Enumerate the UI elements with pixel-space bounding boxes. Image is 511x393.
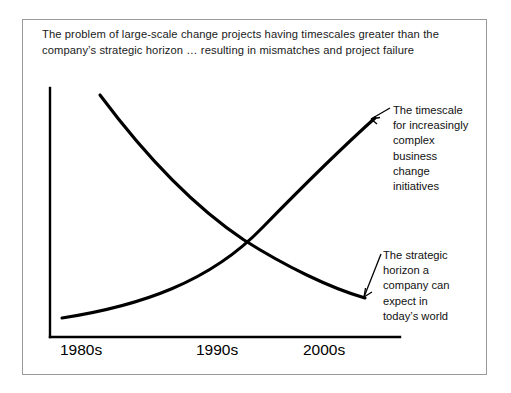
annotation-timescale: The timescale for increasingly complex b… bbox=[393, 103, 468, 194]
annotation-timescale-line-4: business bbox=[393, 149, 468, 164]
chart-graphic bbox=[0, 0, 511, 393]
annotation-timescale-line-1: The timescale bbox=[393, 103, 468, 118]
x-axis-tick-label-2000s: 2000s bbox=[303, 341, 345, 359]
series-line-horizon bbox=[100, 95, 365, 298]
annotation-timescale-line-2: for increasingly bbox=[393, 118, 468, 133]
callout-arrow-timescale bbox=[371, 108, 390, 124]
chart-axes bbox=[50, 88, 400, 337]
annotation-timescale-line-3: complex bbox=[393, 133, 468, 148]
callout-arrow-horizon bbox=[364, 254, 381, 297]
x-axis-tick-label-1980s: 1980s bbox=[60, 341, 102, 359]
annotation-horizon-line-2: horizon a bbox=[383, 263, 450, 278]
annotation-horizon: The strategic horizon a company can expe… bbox=[383, 248, 450, 324]
annotation-horizon-line-4: expect in bbox=[383, 294, 450, 309]
series-line-timescale bbox=[62, 118, 375, 318]
annotation-horizon-line-3: company can bbox=[383, 278, 450, 293]
annotation-timescale-line-5: change bbox=[393, 164, 468, 179]
slide-canvas: The problem of large-scale change projec… bbox=[0, 0, 511, 393]
annotation-horizon-line-5: today’s world bbox=[383, 309, 450, 324]
annotation-horizon-line-1: The strategic bbox=[383, 248, 450, 263]
annotation-timescale-line-6: initiatives bbox=[393, 179, 468, 194]
x-axis-tick-label-1990s: 1990s bbox=[196, 341, 238, 359]
